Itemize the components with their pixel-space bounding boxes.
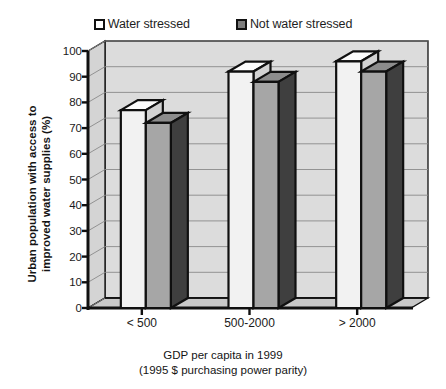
y-axis-tick-label-30: 30 (56, 225, 82, 237)
y-axis-tick-label-80: 80 (56, 96, 82, 108)
y-axis-tick-label-50: 50 (56, 174, 82, 186)
x-axis-tick-label-0: < 500 (127, 316, 157, 330)
bar-not-water-stressed-2-front (361, 72, 386, 308)
x-axis-tick-label-2: > 2000 (339, 316, 376, 330)
y-axis-tick-label-10: 10 (56, 276, 82, 288)
bar-not-water-stressed-0-front (146, 123, 171, 308)
bar-not-water-stressed-1-front (254, 82, 279, 308)
y-axis-tick-label-40: 40 (56, 199, 82, 211)
bar-water-stressed-1-front (229, 72, 254, 308)
bar-not-water-stressed-1-side (279, 72, 296, 308)
y-axis-tick-label-60: 60 (56, 148, 82, 160)
bar-water-stressed-0-front (121, 110, 146, 308)
chart-figure: Water stressed Not water stressed Urban … (0, 0, 446, 389)
bar-not-water-stressed-2-side (386, 62, 403, 308)
x-axis-title: GDP per capita in 1999 (1995 $ purchasin… (0, 348, 446, 378)
y-axis-tick-label-90: 90 (56, 71, 82, 83)
x-axis-tick-label-1: 500-2000 (224, 316, 275, 330)
bar-water-stressed-2-front (336, 61, 361, 308)
y-axis-tick-label-0: 0 (56, 302, 82, 314)
y-axis-tick-label-100: 100 (56, 45, 82, 57)
y-axis-tick-label-70: 70 (56, 122, 82, 134)
y-axis-tick-label-20: 20 (56, 251, 82, 263)
x-axis-title-line-2: (1995 $ purchasing power parity) (0, 363, 446, 378)
x-axis-tick-labels: < 500500-2000> 2000 (0, 316, 446, 332)
x-axis-title-line-1: GDP per capita in 1999 (0, 348, 446, 363)
bar-not-water-stressed-0-side (171, 113, 188, 308)
